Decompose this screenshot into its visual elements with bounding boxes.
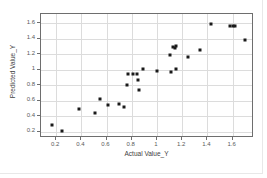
data-point [51, 123, 54, 126]
data-point [99, 98, 102, 101]
y-axis-tick [37, 69, 40, 70]
x-axis-tick-label: 0.2 [45, 140, 65, 148]
gridline-horizontal [41, 101, 252, 102]
data-point [174, 44, 177, 47]
y-axis-tick [37, 84, 40, 85]
gridline-vertical [207, 14, 208, 136]
data-point [125, 84, 128, 87]
data-point [118, 102, 121, 105]
y-axis-tick [37, 115, 40, 116]
y-axis-tick-label: 1.2 [14, 50, 35, 57]
data-point [137, 78, 140, 81]
y-axis-tick [37, 53, 40, 54]
gridline-horizontal [41, 70, 252, 71]
gridline-vertical [233, 14, 234, 136]
x-axis-tick-label: 1.6 [222, 140, 242, 148]
data-point [244, 38, 247, 41]
data-point [169, 71, 172, 74]
data-point [106, 104, 109, 107]
x-axis-title: Actual Value_Y [40, 150, 253, 157]
y-axis-tick-label: 0.6 [14, 96, 35, 103]
data-point [198, 48, 201, 51]
data-point [77, 108, 80, 111]
gridline-horizontal [41, 116, 252, 117]
data-point [123, 106, 126, 109]
x-axis-tick-label: 1 [146, 140, 166, 148]
y-axis-tick [37, 22, 40, 23]
data-point [168, 54, 171, 57]
y-axis-tick [37, 38, 40, 39]
gridline-vertical [182, 14, 183, 136]
gridline-horizontal [41, 39, 252, 40]
gridline-horizontal [41, 54, 252, 55]
y-axis-tick-label: 1.6 [14, 19, 35, 26]
y-axis-tick-label: 0.8 [14, 81, 35, 88]
y-axis-tick [37, 100, 40, 101]
data-point [187, 56, 190, 59]
gridline-vertical [56, 14, 57, 136]
x-axis-tick-label: 0.8 [121, 140, 141, 148]
data-point [61, 130, 64, 133]
gridline-horizontal [41, 132, 252, 133]
data-point [126, 73, 129, 76]
data-point [174, 68, 177, 71]
data-point [94, 112, 97, 115]
y-axis-tick-label: 0.2 [14, 127, 35, 134]
y-axis-tick [37, 131, 40, 132]
plot-area [40, 13, 253, 137]
data-point [138, 88, 141, 91]
data-point [234, 24, 237, 27]
gridline-vertical [107, 14, 108, 136]
scatter-plot-figure: 0.20.40.60.811.21.41.60.20.40.60.811.21.… [0, 0, 267, 178]
y-axis-title: Predicted Value_Y [9, 27, 16, 117]
y-axis-tick-label: 1.4 [14, 34, 35, 41]
x-axis-tick-label: 1.2 [171, 140, 191, 148]
x-axis-tick-label: 1.4 [196, 140, 216, 148]
gridline-vertical [157, 14, 158, 136]
data-point [142, 68, 145, 71]
data-point [210, 23, 213, 26]
y-axis-tick-label: 1 [14, 65, 35, 72]
y-axis-tick-label: 0.4 [14, 112, 35, 119]
gridline-vertical [81, 14, 82, 136]
data-point [155, 69, 158, 72]
x-axis-tick-label: 0.4 [70, 140, 90, 148]
data-point [135, 73, 138, 76]
data-point [132, 73, 135, 76]
gridline-horizontal [41, 85, 252, 86]
x-axis-tick-label: 0.6 [96, 140, 116, 148]
gridline-horizontal [41, 23, 252, 24]
